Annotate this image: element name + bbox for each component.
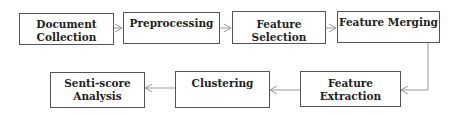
node-label: Feature Merging (338, 16, 439, 29)
node-clustering: Clustering (175, 71, 270, 108)
node-preprocessing: Preprocessing (123, 12, 220, 44)
node-label: Document (20, 18, 113, 31)
node-label: Collection (20, 31, 113, 44)
node-label: Senti-score (51, 77, 144, 90)
node-label: Preprocessing (124, 17, 219, 30)
node-label: Feature Selection (233, 18, 325, 44)
node-document-collection: Document Collection (19, 13, 114, 45)
node-feature-selection: Feature Selection (232, 11, 326, 44)
node-feature-merging: Feature Merging (337, 11, 440, 43)
node-feature-extraction: Feature Extraction (300, 71, 401, 107)
node-senti-score-analysis: Senti-score Analysis (50, 72, 145, 108)
node-label: Feature Extraction (301, 77, 400, 103)
arrow-mer-to-ext (401, 42, 428, 90)
node-label: Clustering (176, 77, 269, 90)
node-label: Analysis (51, 90, 144, 103)
